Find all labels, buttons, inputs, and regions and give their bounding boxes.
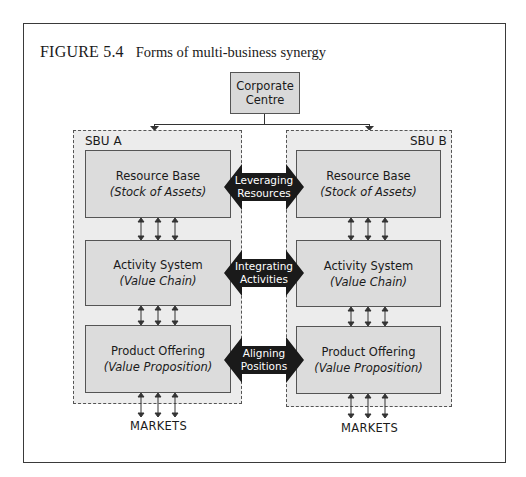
- synergy-arrow-integrating: IntegratingActivities: [224, 250, 304, 296]
- connector-horizontal: [154, 124, 370, 125]
- figure-caption: FIGURE 5.4Forms of multi-business synerg…: [40, 43, 326, 61]
- vertical-arrows-icon: [346, 394, 390, 418]
- box-title: Resource Base: [116, 168, 200, 184]
- sbu-b-product-offering: Product Offering (Value Proposition): [296, 326, 441, 394]
- figure-title: Forms of multi-business synergy: [136, 44, 326, 60]
- vertical-arrows-icon: [346, 218, 390, 240]
- box-subtitle: (Value Chain): [330, 274, 407, 290]
- sbu-b-resource-base: Resource Base (Stock of Assets): [296, 150, 441, 218]
- synergy-label-line2: Activities: [240, 273, 288, 286]
- sbu-a-activity-system: Activity System (Value Chain): [85, 240, 231, 306]
- sbu-b-markets-label: MARKETS: [341, 421, 398, 435]
- sbu-a-product-offering: Product Offering (Value Proposition): [85, 325, 231, 393]
- sbu-a-markets-label: MARKETS: [130, 419, 187, 433]
- box-subtitle: (Stock of Assets): [110, 184, 207, 200]
- synergy-label-line2: Positions: [241, 360, 287, 373]
- vertical-arrows-icon: [136, 306, 180, 325]
- box-subtitle: (Value Proposition): [104, 359, 213, 375]
- box-title: Product Offering: [322, 344, 416, 360]
- box-title: Activity System: [324, 258, 414, 274]
- vertical-arrows-icon: [136, 393, 180, 417]
- corporate-label-line1: Corporate: [236, 79, 294, 93]
- sbu-a-resource-base: Resource Base (Stock of Assets): [85, 150, 231, 218]
- synergy-arrow-aligning: AligningPositions: [224, 337, 304, 383]
- box-title: Resource Base: [326, 168, 410, 184]
- box-subtitle: (Value Chain): [119, 273, 196, 289]
- sbu-b-activity-system: Activity System (Value Chain): [296, 240, 441, 307]
- connector-vertical: [264, 114, 265, 124]
- synergy-arrow-leveraging: LeveragingResources: [224, 164, 304, 210]
- vertical-arrows-icon: [346, 307, 390, 326]
- sbu-b-label: SBU B: [410, 134, 447, 148]
- sbu-a-label: SBU A: [85, 134, 122, 148]
- corporate-label-line2: Centre: [246, 93, 284, 107]
- box-title: Activity System: [113, 257, 203, 273]
- box-title: Product Offering: [111, 343, 205, 359]
- vertical-arrows-icon: [136, 218, 180, 240]
- corporate-centre-box: Corporate Centre: [230, 72, 300, 114]
- synergy-label-line1: Aligning: [243, 347, 286, 360]
- synergy-label-line1: Integrating: [235, 260, 293, 273]
- figure-number: FIGURE 5.4: [40, 43, 124, 60]
- synergy-label-line1: Leveraging: [235, 174, 293, 187]
- box-subtitle: (Value Proposition): [314, 360, 423, 376]
- synergy-label-line2: Resources: [237, 187, 291, 200]
- box-subtitle: (Stock of Assets): [320, 184, 417, 200]
